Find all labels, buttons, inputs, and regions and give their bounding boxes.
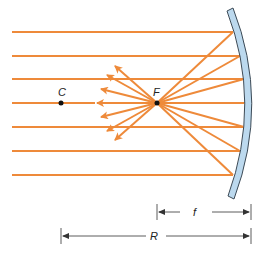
center-label: C bbox=[58, 86, 66, 98]
radius-label: R bbox=[150, 230, 158, 242]
focal-label: F bbox=[153, 86, 161, 98]
focal-length-dimension bbox=[157, 204, 251, 220]
focal-point bbox=[155, 101, 160, 106]
diverging-rays bbox=[97, 66, 157, 140]
center-point bbox=[59, 101, 64, 106]
focal-length-label: f bbox=[193, 206, 197, 218]
mirror-diagram: C F f R bbox=[0, 0, 262, 253]
